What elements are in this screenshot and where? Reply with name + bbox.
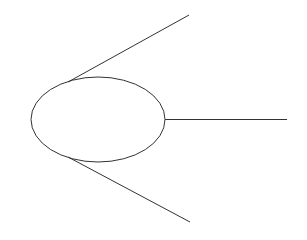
- ellipse-node: [31, 77, 165, 162]
- diagram-svg: [0, 0, 307, 240]
- lower-line: [68, 157, 190, 222]
- upper-line: [68, 15, 189, 82]
- diagram-canvas: [0, 0, 307, 240]
